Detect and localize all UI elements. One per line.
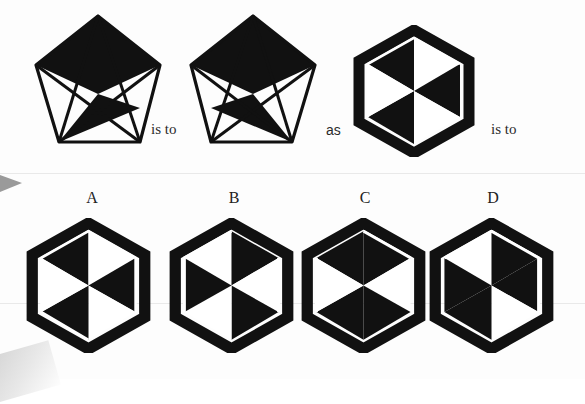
- option-label-d: D: [478, 190, 508, 206]
- option-label-a: A: [77, 190, 107, 206]
- option-label-b: B: [219, 190, 249, 206]
- relation-word-as: as: [326, 123, 341, 137]
- option-figure-d[interactable]: [428, 218, 556, 353]
- option-figure-b[interactable]: [168, 218, 296, 353]
- option-label-c: C: [350, 190, 380, 206]
- scan-artifact-line-upper: [0, 173, 585, 174]
- prompt-figure-2-pentagon: [183, 8, 323, 153]
- option-figure-c[interactable]: [300, 218, 428, 353]
- relation-word-is-to-1: is to: [151, 122, 176, 137]
- relation-word-is-to-2: is to: [491, 122, 516, 137]
- prompt-figure-3-hexagon: [352, 25, 477, 157]
- margin-pointer-icon: [0, 171, 26, 197]
- option-figure-a[interactable]: [25, 218, 153, 353]
- prompt-figure-1-pentagon: [28, 8, 168, 153]
